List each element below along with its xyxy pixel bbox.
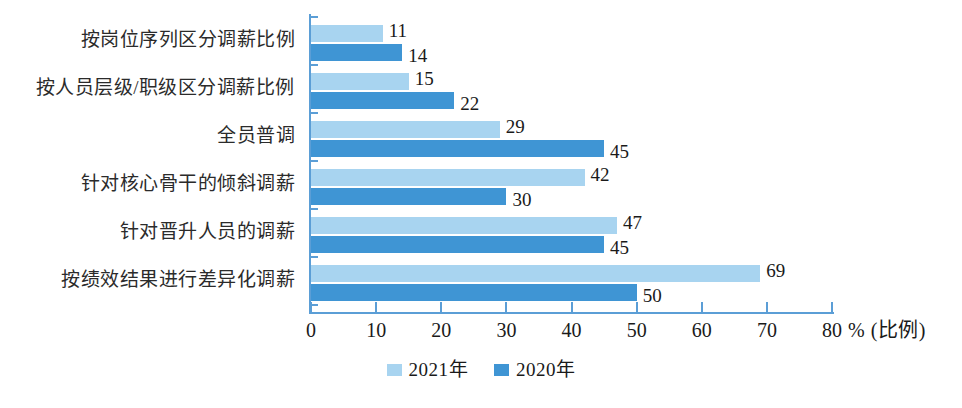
bar-3-series-2020 (311, 188, 506, 205)
bar-0-series-2021 (311, 25, 383, 42)
x-axis-tick-60 (701, 302, 703, 314)
bar-5-series-2020 (311, 284, 637, 301)
x-axis-tick-label-0: 0 (306, 318, 316, 342)
bar-4-series-2020 (311, 236, 604, 253)
category-label-1: 按人员层级/职级区分调薪比例 (0, 77, 295, 99)
y-axis-tick-1 (311, 64, 318, 66)
bar-value-label-3-series-2020: 30 (512, 190, 531, 209)
x-axis-tick-label-60: 60 (692, 318, 712, 342)
legend-item-2021年[interactable]: 2021年 (387, 360, 469, 380)
x-axis-tick-label-50: 50 (627, 318, 647, 342)
x-axis-tick-label-30: 30 (496, 318, 516, 342)
legend-swatch-icon-2021年 (387, 364, 402, 376)
bar-value-label-4-series-2020: 45 (610, 238, 629, 257)
x-axis-tick-labels: % (比例) 01020304050607080 (311, 318, 951, 346)
y-axis-tick-4 (311, 208, 318, 210)
category-label-0: 按岗位序列区分调薪比例 (0, 29, 295, 51)
x-axis-tick-20 (440, 302, 442, 314)
bar-value-label-0-series-2021: 11 (389, 21, 407, 40)
category-label-5: 按绩效结果进行差异化调薪 (0, 269, 295, 291)
bar-value-label-1-series-2020: 22 (460, 94, 479, 113)
x-axis-tick-label-40: 40 (562, 318, 582, 342)
bar-value-label-2-series-2020: 45 (610, 142, 629, 161)
y-axis-tick-3 (311, 160, 318, 162)
legend-swatch-icon-2020年 (494, 364, 509, 376)
bar-value-label-1-series-2021: 15 (415, 69, 434, 88)
legend-label-2021年: 2021年 (409, 360, 469, 380)
x-axis-tick-40 (571, 302, 573, 314)
y-axis-tick-5 (311, 256, 318, 258)
bar-value-label-0-series-2020: 14 (408, 46, 427, 65)
x-axis-tick-10 (375, 302, 377, 314)
x-axis-tick-label-70: 70 (757, 318, 777, 342)
bar-5-series-2021 (311, 265, 760, 282)
y-axis-tick-0 (311, 16, 318, 18)
bar-value-label-5-series-2020: 50 (643, 286, 662, 305)
bar-2-series-2020 (311, 140, 604, 157)
plot-area: 111415222945423047456950 (311, 18, 832, 308)
x-axis-tick-label-10: 10 (366, 318, 386, 342)
bar-0-series-2020 (311, 44, 402, 61)
bar-value-label-3-series-2021: 42 (591, 165, 610, 184)
x-axis-tick-80 (831, 302, 833, 314)
x-axis-tick-0 (310, 302, 312, 314)
x-axis-tick-label-20: 20 (431, 318, 451, 342)
bar-1-series-2020 (311, 92, 454, 109)
category-label-4: 针对晋升人员的调薪 (0, 221, 295, 243)
legend-item-2020年[interactable]: 2020年 (494, 360, 576, 380)
x-axis-tick-label-80: 80 (822, 318, 842, 342)
legend-label-2020年: 2020年 (516, 360, 576, 380)
y-axis-tick-2 (311, 112, 318, 114)
x-axis-unit-label: % (比例) (848, 318, 926, 342)
bar-2-series-2021 (311, 121, 500, 138)
bar-chart: 按岗位序列区分调薪比例 按人员层级/职级区分调薪比例 全员普调 针对核心骨干的倾… (0, 0, 962, 408)
x-axis-tick-30 (505, 302, 507, 314)
bar-1-series-2021 (311, 73, 409, 90)
y-axis-tick-6 (311, 304, 318, 306)
bar-3-series-2021 (311, 169, 585, 186)
bar-value-label-5-series-2021: 69 (766, 261, 785, 280)
category-label-3: 针对核心骨干的倾斜调薪 (0, 173, 295, 195)
category-label-2: 全员普调 (0, 125, 295, 147)
bar-value-label-4-series-2021: 47 (623, 213, 642, 232)
bar-4-series-2021 (311, 217, 617, 234)
bar-value-label-2-series-2021: 29 (506, 117, 525, 136)
x-axis-tick-70 (766, 302, 768, 314)
chart-legend: 2021年2020年 (0, 360, 962, 380)
category-axis-labels: 按岗位序列区分调薪比例 按人员层级/职级区分调薪比例 全员普调 针对核心骨干的倾… (0, 0, 303, 310)
x-axis-tick-50 (636, 302, 638, 314)
